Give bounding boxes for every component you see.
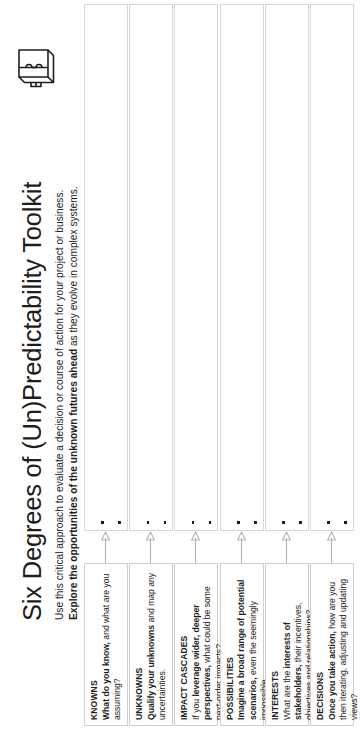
prompt-text-decisions: DECISIONSOnce you take action, how are y… [311, 564, 360, 725]
arrow-right-icon [101, 531, 103, 563]
subtitle-remainder: as they evolve in complex systems. [68, 186, 79, 349]
section-row-possibilities: POSSIBILITIESImagine a broad range of po… [220, 0, 264, 731]
prompt-emphasis-unknowns: Qualify your unknowns [146, 625, 156, 720]
bullet-item[interactable] [135, 9, 152, 524]
square-bullet-icon [101, 521, 104, 524]
answer-box-interests[interactable] [265, 4, 309, 531]
answer-box-possibilities[interactable] [220, 4, 264, 531]
section-row-knowns: KNOWNSWhat do you know, and what are you… [84, 0, 128, 731]
bullet-list-knowns [90, 9, 124, 524]
prompt-text-possibilities: POSSIBILITIESImagine a broad range of po… [221, 564, 270, 725]
square-bullet-icon [118, 521, 121, 524]
answer-box-impact-cascades[interactable] [174, 4, 218, 531]
bullet-item[interactable] [180, 9, 197, 524]
bullet-item[interactable] [333, 9, 350, 524]
prompt-box-unknowns: UNKNOWNSQualify your unknowns and map an… [129, 563, 173, 726]
bullet-list-interests [271, 9, 305, 524]
page-title: Six Degrees of (Un)Predictability Toolki… [18, 182, 47, 621]
square-bullet-icon [282, 521, 285, 524]
square-bullet-icon [147, 521, 150, 524]
bullet-item[interactable] [226, 9, 243, 524]
square-bullet-icon [237, 521, 240, 524]
bullet-item[interactable] [197, 9, 214, 524]
prompt-text-impact-cascades: IMPACT CASCADESIf you leverage wider, de… [175, 564, 224, 725]
prompt-box-impact-cascades: IMPACT CASCADESIf you leverage wider, de… [174, 563, 218, 726]
prompt-box-knowns: KNOWNSWhat do you know, and what are you… [84, 563, 128, 726]
section-heading-decisions: DECISIONS [315, 569, 326, 720]
arrow-right-icon [282, 531, 284, 563]
bullet-item[interactable] [90, 9, 107, 524]
arrow-right-icon [146, 531, 148, 563]
section-row-decisions: DECISIONSOnce you take action, how are y… [310, 0, 354, 731]
section-prompt-unknowns: Qualify your unknowns and map any uncert… [146, 569, 168, 720]
square-bullet-icon [192, 521, 195, 524]
answer-box-knowns[interactable] [84, 4, 128, 531]
bullet-item[interactable] [316, 9, 333, 524]
section-heading-knowns: KNOWNS [89, 569, 100, 720]
prompt-text-unknowns: UNKNOWNSQualify your unknowns and map an… [130, 564, 168, 725]
bullet-list-impact-cascades [180, 9, 214, 524]
section-heading-possibilities: POSSIBILITIES [225, 569, 236, 720]
section-row-interests: INTERESTSWhat are the interests of stake… [265, 0, 309, 731]
bullet-list-possibilities [226, 9, 260, 524]
sections-list: KNOWNSWhat do you know, and what are you… [84, 0, 355, 731]
section-heading-unknowns: UNKNOWNS [134, 569, 145, 720]
prompt-box-interests: INTERESTSWhat are the interests of stake… [265, 563, 309, 726]
prompt-pre-impact-cascades: If you [191, 697, 201, 720]
bullet-list-unknowns [135, 9, 169, 524]
bullet-item[interactable] [243, 9, 260, 524]
bullet-item[interactable] [271, 9, 288, 524]
arrow-right-icon [191, 531, 193, 563]
arrow-right-icon [327, 531, 329, 563]
bullet-list-decisions [316, 9, 350, 524]
bullet-item[interactable] [288, 9, 305, 524]
prompt-text-interests: INTERESTSWhat are the interests of stake… [266, 564, 315, 725]
section-row-impact-cascades: IMPACT CASCADESIf you leverage wider, de… [174, 0, 218, 731]
square-bullet-icon [327, 521, 330, 524]
subtitle-emphasis: Explore the opportunities of the unknown… [68, 349, 79, 620]
answer-box-decisions[interactable] [310, 4, 354, 531]
prompt-pre-interests: What are the [282, 668, 292, 720]
subtitle-line-2: Explore the opportunities of the unknown… [68, 186, 79, 620]
bullet-item[interactable] [107, 9, 124, 524]
subtitle-line-1: Use this critical approach to evaluate a… [54, 190, 65, 620]
arrow-right-icon [237, 531, 239, 563]
prompt-emphasis-decisions: Once you take action, [327, 631, 337, 720]
answer-box-unknowns[interactable] [129, 4, 173, 531]
prompt-text-knowns: KNOWNSWhat do you know, and what are you… [85, 564, 123, 725]
prompt-emphasis-knowns: What do you know, [101, 642, 111, 720]
section-row-unknowns: UNKNOWNSQualify your unknowns and map an… [129, 0, 173, 731]
square-bullet-icon [299, 521, 302, 524]
section-heading-interests: INTERESTS [270, 569, 281, 720]
square-bullet-icon [344, 521, 347, 524]
square-bullet-icon [254, 521, 257, 524]
square-bullet-icon [209, 521, 212, 524]
prompt-box-possibilities: POSSIBILITIESImagine a broad range of po… [220, 563, 264, 726]
prompt-box-decisions: DECISIONSOnce you take action, how are y… [310, 563, 354, 726]
section-heading-impact-cascades: IMPACT CASCADES [179, 569, 190, 720]
section-prompt-knowns: What do you know, and what are you assum… [101, 569, 123, 720]
3d-box-icon [14, 42, 58, 88]
bullet-item[interactable] [152, 9, 169, 524]
square-bullet-icon [164, 521, 167, 524]
section-prompt-decisions: Once you take action, how are you then i… [327, 569, 360, 720]
